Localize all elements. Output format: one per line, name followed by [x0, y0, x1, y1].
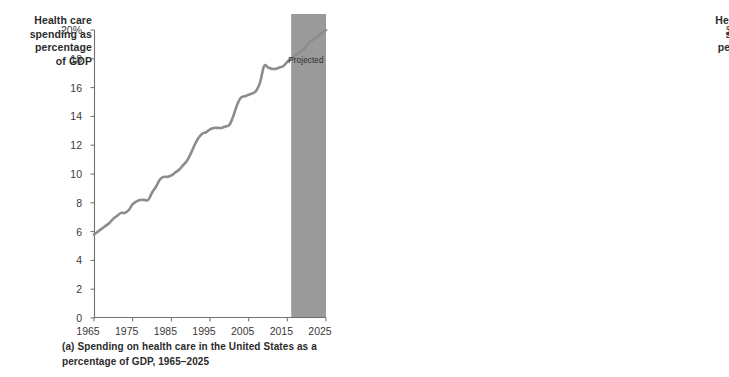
x-tick-label: 2005 — [231, 325, 254, 337]
panel-a: Health care spending as percentage of GD… — [0, 0, 365, 377]
x-tick-label: 2015 — [270, 325, 293, 337]
y-tick-label: 4 — [76, 254, 82, 266]
panel-a-caption: (a) Spending on health care in the Unite… — [62, 339, 352, 369]
panel-a-plot-area — [88, 30, 320, 318]
y-tick-label: 8 — [76, 197, 82, 209]
panel-a-y-tick-labels: 02468101214161820% — [10, 30, 82, 318]
x-tick-label: 2025 — [308, 325, 331, 337]
x-tick-label: 1965 — [76, 325, 99, 337]
y-tick-label: 0 — [76, 312, 82, 324]
y-tick-label: 10 — [70, 168, 82, 180]
panel-a-svg — [88, 30, 334, 330]
y-tick-label: 16 — [70, 82, 82, 94]
panel-b: Health care spending per person 01,0002,… — [365, 0, 729, 377]
panel-b-y-tick-labels: 01,0002,0003,0004,0005,0006,0007,0008,00… — [692, 30, 729, 318]
y-tick-label: 18 — [70, 53, 82, 65]
x-tick-label: 1975 — [115, 325, 138, 337]
y-tick-label: 12 — [70, 139, 82, 151]
y-tick-label: 2 — [76, 283, 82, 295]
x-tick-label: 1995 — [192, 325, 215, 337]
figure-root: Health care spending as percentage of GD… — [0, 0, 729, 377]
y-tick-label: 6 — [76, 226, 82, 238]
y-tick-label: 20% — [61, 24, 82, 36]
x-tick-label: 1985 — [154, 325, 177, 337]
y-tick-label: 14 — [70, 110, 82, 122]
projected-band-label: Projected — [288, 56, 324, 65]
